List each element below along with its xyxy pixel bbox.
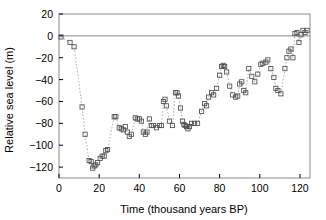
x-axis-ticks: 020406080100120 — [56, 174, 309, 194]
y-tick-label: −20 — [35, 52, 53, 64]
data-point-marker — [247, 67, 251, 71]
series-connector-line — [61, 30, 307, 168]
data-point-marker — [125, 130, 129, 134]
y-tick-label: −120 — [29, 161, 53, 173]
y-axis-ticks: 200−20−40−60−80−100−120 — [29, 8, 63, 173]
x-tick-label: 0 — [56, 182, 62, 194]
chart-svg: 020406080100120 200−20−40−60−80−100−120 … — [0, 0, 326, 220]
y-tick-label: 0 — [47, 30, 53, 42]
x-tick-label: 60 — [174, 182, 186, 194]
data-point-marker — [114, 115, 118, 119]
y-tick-label: −80 — [35, 117, 53, 129]
sea-level-chart-figure: 020406080100120 200−20−40−60−80−100−120 … — [0, 0, 326, 220]
y-tick-label: −60 — [35, 95, 53, 107]
y-axis-label: Relative sea level (m) — [3, 47, 15, 153]
data-point-marker — [272, 75, 276, 79]
plot-frame — [59, 14, 310, 178]
y-tick-label: −40 — [35, 74, 53, 86]
data-point-marker — [269, 67, 273, 71]
x-tick-label: 20 — [93, 182, 105, 194]
x-tick-label: 80 — [214, 182, 226, 194]
x-axis-label: Time (thousand years BP) — [120, 203, 247, 215]
x-tick-label: 120 — [291, 182, 309, 194]
y-tick-label: 20 — [41, 8, 53, 20]
data-point-marker — [256, 72, 260, 76]
x-tick-label: 100 — [251, 182, 269, 194]
x-tick-label: 40 — [133, 182, 145, 194]
y-tick-label: −100 — [29, 139, 53, 151]
series-data-markers — [59, 28, 309, 170]
